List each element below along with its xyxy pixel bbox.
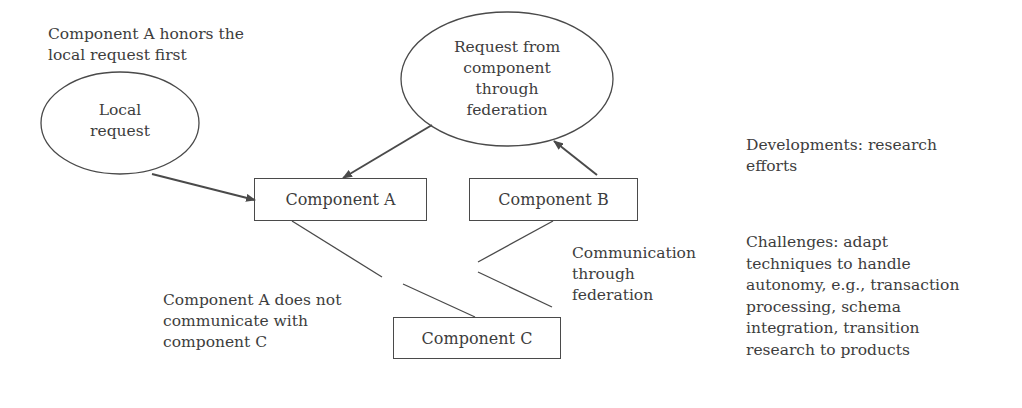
local-request-label: Local request	[70, 100, 170, 142]
note-no-comm-line-1: Component A does not	[163, 290, 341, 311]
arrow-b-to-federation	[554, 141, 597, 175]
note-fed-comm-line-3: federation	[572, 285, 696, 306]
component-b-box: Component B	[469, 178, 638, 221]
arrow-local-to-a	[152, 174, 255, 200]
local-request-line-2: request	[70, 121, 170, 142]
note-challenges-line-2: techniques to handle	[746, 254, 959, 276]
local-request-line-1: Local	[70, 100, 170, 121]
note-honors: Component A honors the local request fir…	[48, 24, 244, 66]
note-challenges-line-4: processing, schema	[746, 297, 959, 319]
note-no-comm-line-3: component C	[163, 332, 341, 353]
note-developments-line-1: Developments: research	[746, 135, 937, 156]
arrow-federation-to-a	[343, 125, 432, 178]
note-federation-communication: Communication through federation	[572, 243, 696, 306]
federation-request-line-3: through	[440, 79, 574, 100]
note-developments: Developments: research efforts	[746, 135, 937, 177]
note-developments-line-2: efforts	[746, 156, 937, 177]
note-honors-line-2: local request first	[48, 45, 244, 66]
note-challenges-line-1: Challenges: adapt	[746, 232, 959, 254]
note-no-comm-line-2: communicate with	[163, 311, 341, 332]
note-no-communication: Component A does not communicate with co…	[163, 290, 341, 353]
line-gap-to-c	[478, 272, 552, 307]
federation-request-line-2: component	[440, 58, 574, 79]
component-a-label: Component A	[285, 190, 395, 209]
note-challenges: Challenges: adapt techniques to handle a…	[746, 232, 959, 361]
note-fed-comm-line-1: Communication	[572, 243, 696, 264]
federation-request-label: Request from component through federatio…	[440, 37, 574, 121]
line-a-to-c-top	[292, 221, 382, 277]
component-b-label: Component B	[498, 190, 608, 209]
federation-request-line-4: federation	[440, 100, 574, 121]
note-fed-comm-line-2: through	[572, 264, 696, 285]
note-challenges-line-3: autonomy, e.g., transaction	[746, 275, 959, 297]
note-honors-line-1: Component A honors the	[48, 24, 244, 45]
line-b-to-gap	[478, 221, 553, 262]
note-challenges-line-5: integration, transition	[746, 318, 959, 340]
line-a-to-c-bottom	[403, 284, 475, 317]
note-challenges-line-6: research to products	[746, 340, 959, 362]
federation-request-line-1: Request from	[440, 37, 574, 58]
component-c-box: Component C	[393, 317, 561, 359]
component-c-label: Component C	[422, 329, 533, 348]
component-a-box: Component A	[254, 178, 427, 221]
